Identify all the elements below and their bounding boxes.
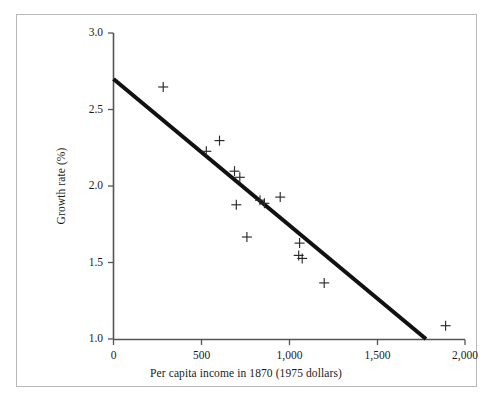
data-point xyxy=(231,200,241,210)
data-point xyxy=(242,232,252,242)
data-point xyxy=(215,136,225,146)
data-point xyxy=(319,278,329,288)
scatter-plot-canvas xyxy=(0,0,492,405)
data-point-markers xyxy=(158,82,450,331)
x-axis-title: Per capita income in 1870 (1975 dollars) xyxy=(150,368,342,380)
x-axis-ticks xyxy=(114,340,466,346)
x-tick-label-0: 0 xyxy=(111,350,117,362)
y-tick-label-3-0: 3.0 xyxy=(79,27,103,39)
x-tick-label-1000: 1,000 xyxy=(277,350,303,362)
y-axis-ticks xyxy=(108,33,114,339)
y-tick-label-2-0: 2.0 xyxy=(79,180,103,192)
data-point xyxy=(158,82,168,92)
x-tick-label-1500: 1,500 xyxy=(365,350,391,362)
data-point xyxy=(441,321,451,331)
data-point xyxy=(275,192,285,202)
x-tick-label-2000: 2,000 xyxy=(452,350,478,362)
regression-line xyxy=(114,79,427,339)
y-tick-label-1-0: 1.0 xyxy=(79,333,103,345)
x-tick-label-500: 500 xyxy=(193,350,210,362)
y-tick-label-2-5: 2.5 xyxy=(79,104,103,116)
y-axis-title: Growth rate (%) xyxy=(56,148,68,225)
y-tick-label-1-5: 1.5 xyxy=(79,257,103,269)
data-point xyxy=(295,238,305,248)
axis-lines xyxy=(113,33,465,340)
